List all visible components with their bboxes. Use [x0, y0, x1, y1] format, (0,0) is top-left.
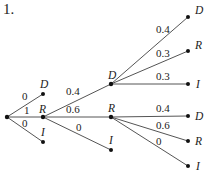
- node-R2: [109, 115, 113, 119]
- node-R1: [41, 115, 45, 119]
- label-D2: D: [107, 69, 117, 81]
- prob-root-I: 0: [22, 117, 28, 129]
- prob-R-D: 0.4: [66, 85, 80, 97]
- label-DI: I: [195, 78, 201, 90]
- node-I2: [109, 148, 113, 152]
- problem-number: 1.: [3, 1, 14, 17]
- edge-RR-D: [111, 116, 188, 117]
- leaf-DR: [186, 49, 190, 53]
- prob-R-R: 0.6: [66, 103, 80, 115]
- edge-RR-R: [111, 117, 188, 141]
- prob-RD-D: 0.4: [156, 23, 170, 35]
- label-I2: I: [108, 134, 114, 146]
- label-DD: D: [194, 4, 204, 16]
- node-I1: [41, 140, 45, 144]
- leaf-DD: [186, 15, 190, 19]
- node-D2: [109, 82, 113, 86]
- prob-RD-I: 0.3: [156, 70, 170, 82]
- label-DR: R: [194, 39, 202, 51]
- prob-R-I: 0: [76, 121, 82, 133]
- prob-RR-R: 0.6: [156, 119, 170, 131]
- probability-tree-diagram: 1. D R I D R I D R I D R I 0 1 0 0.4 0.6…: [0, 0, 206, 175]
- label-RD: D: [194, 110, 204, 122]
- edge-RD-D: [111, 17, 188, 84]
- prob-RR-I: 0: [156, 135, 162, 147]
- leaf-RD: [186, 114, 190, 118]
- edge-RR-I: [111, 117, 188, 166]
- prob-RD-R: 0.3: [156, 47, 170, 59]
- label-RI: I: [195, 160, 201, 172]
- label-I1: I: [40, 126, 46, 138]
- node-D1: [41, 92, 45, 96]
- edge-RD-R: [111, 51, 188, 84]
- label-RR: R: [194, 135, 202, 147]
- label-D1: D: [39, 78, 49, 90]
- label-R1: R: [38, 103, 46, 115]
- prob-root-D: 0: [22, 90, 28, 102]
- root-node: [5, 115, 9, 119]
- leaf-RI: [186, 164, 190, 168]
- prob-root-R: 1: [24, 104, 30, 116]
- leaf-RR: [186, 139, 190, 143]
- leaf-DI: [186, 82, 190, 86]
- label-R2: R: [107, 102, 115, 114]
- prob-RR-D: 0.4: [156, 102, 170, 114]
